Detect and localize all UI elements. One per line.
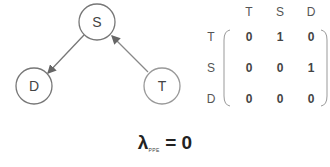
cell-s-t: 0 bbox=[241, 61, 257, 75]
cell-s-s: 0 bbox=[272, 61, 288, 75]
cell-d-s: 0 bbox=[272, 92, 288, 106]
node-d: D bbox=[16, 68, 52, 104]
cell-t-t: 0 bbox=[241, 30, 257, 44]
cell-t-d: 0 bbox=[303, 30, 319, 44]
cell-d-d: 0 bbox=[303, 92, 319, 106]
directed-graph: S D T bbox=[0, 0, 200, 115]
edge-t-to-s bbox=[112, 36, 148, 72]
lambda-formula: λPPE = 0 bbox=[0, 132, 330, 154]
adjacency-matrix: T S D T S D 0 1 0 0 0 1 0 0 0 bbox=[200, 0, 330, 110]
node-t: T bbox=[144, 68, 180, 104]
node-s-label: S bbox=[92, 14, 101, 30]
cell-d-t: 0 bbox=[241, 92, 257, 106]
edge-s-to-d bbox=[48, 35, 84, 73]
node-s: S bbox=[79, 4, 115, 40]
node-d-label: D bbox=[29, 78, 39, 94]
cell-s-d: 1 bbox=[303, 61, 319, 75]
lambda-symbol: λ bbox=[138, 132, 149, 153]
formula-value: = 0 bbox=[165, 132, 192, 153]
lambda-subscript: PPE bbox=[148, 147, 160, 153]
node-t-label: T bbox=[158, 78, 167, 94]
cell-t-s: 1 bbox=[272, 30, 288, 44]
